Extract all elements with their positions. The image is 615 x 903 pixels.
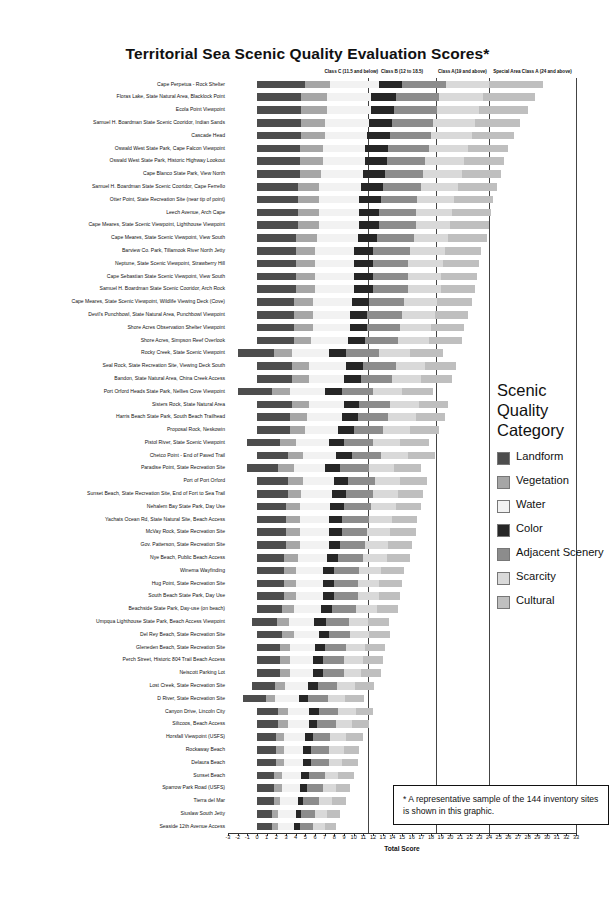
bar-segment-vegetation — [276, 746, 284, 754]
bar-segment-color — [313, 669, 323, 677]
bar-segment-water — [323, 145, 366, 153]
bar-segment-adjacent-scenery — [342, 388, 373, 396]
bar-segment-scarcity — [349, 618, 368, 626]
category-label: Proposal Rock, Neskowin — [167, 426, 225, 434]
bar-segment-water — [278, 823, 293, 831]
category-label: Canyon Drive, Lincoln City — [165, 708, 225, 716]
bar-segment-water — [315, 273, 354, 281]
bar-segment-adjacent-scenery — [367, 311, 402, 319]
bar-segment-water — [290, 669, 313, 677]
bar-segment-landform — [257, 170, 300, 178]
category-label: Delaura Beach — [191, 759, 225, 767]
bar-segment-landform — [243, 695, 266, 703]
bar-row — [228, 298, 576, 306]
category-label: Shore Acres Observation Shelter Viewpoin… — [127, 324, 225, 332]
bar-segment-landform — [257, 260, 296, 268]
legend-item: Scarcity — [497, 570, 609, 585]
bar-segment-vegetation — [286, 528, 300, 536]
bar-segment-water — [305, 426, 338, 434]
bar-segment-vegetation — [274, 784, 282, 792]
bar-segment-landform — [257, 580, 284, 588]
bar-segment-color — [338, 426, 353, 434]
bar-row — [228, 132, 576, 140]
bar-segment-scarcity — [431, 132, 472, 140]
legend-swatch-adjacent-scenery — [497, 548, 510, 561]
bar-segment-adjacent-scenery — [365, 337, 398, 345]
bar-segment-water — [301, 490, 332, 498]
bar-segment-vegetation — [294, 324, 313, 332]
bar-segment-landform — [247, 464, 278, 472]
bar-row — [228, 695, 576, 703]
bar-segment-color — [363, 170, 384, 178]
bar-segment-landform — [257, 132, 301, 140]
bar-row — [228, 170, 576, 178]
legend-label: Scarcity — [516, 570, 556, 583]
bar-segment-color — [305, 733, 313, 741]
legend-swatch-landform — [497, 452, 510, 465]
bar-segment-cultural — [396, 503, 421, 511]
bar-segment-cultural — [342, 759, 357, 767]
x-axis-label: Total Score — [228, 845, 576, 852]
bar-segment-water — [284, 746, 303, 754]
bar-segment-color — [346, 362, 363, 370]
category-label: Seaside 12th Avenue Access — [159, 823, 225, 831]
bar-segment-landform — [257, 669, 280, 677]
bar-row — [228, 644, 576, 652]
bar-segment-scarcity — [446, 81, 489, 89]
category-label: Port of Port Orford — [183, 477, 225, 485]
bar-segment-water — [292, 349, 329, 357]
bar-segment-color — [344, 401, 359, 409]
bar-segment-adjacent-scenery — [390, 132, 431, 140]
bar-segment-water — [282, 784, 299, 792]
bar-segment-color — [359, 196, 380, 204]
bar-segment-color — [308, 682, 318, 690]
legend-label: Color — [516, 522, 543, 535]
category-label: Samuel H. Boardman State Scenic Cooridor… — [92, 183, 225, 191]
legend-label: Cultural — [516, 594, 555, 607]
note-text: * A representative sample of the 144 inv… — [403, 794, 598, 816]
bar-segment-vegetation — [284, 554, 298, 562]
bar-segment-water — [278, 810, 295, 818]
category-label: Sparrow Park Road (USFS) — [162, 784, 225, 792]
bar-segment-water — [303, 452, 336, 460]
legend-label: Vegetation — [516, 474, 569, 487]
bar-segment-scarcity — [358, 592, 379, 600]
bar-segment-cultural — [338, 772, 353, 780]
bar-segment-landform — [257, 656, 280, 664]
bar-segment-vegetation — [294, 298, 313, 306]
bar-segment-scarcity — [338, 708, 355, 716]
bar-segment-scarcity — [373, 388, 402, 396]
bar-segment-scarcity — [396, 362, 425, 370]
bar-segment-cultural — [454, 196, 493, 204]
category-label: Lost Creek, State Recreation Site — [149, 682, 225, 690]
category-label: Siltcoos, Beach Access — [172, 720, 225, 728]
legend-item: Cultural — [497, 594, 609, 609]
bar-segment-cultural — [345, 695, 364, 703]
bar-segment-water — [309, 362, 346, 370]
bar-row — [228, 656, 576, 664]
bar-segment-vegetation — [300, 157, 323, 165]
bar-segment-water — [275, 695, 298, 703]
bar-segment-scarcity — [373, 490, 398, 498]
bar-segment-water — [284, 759, 303, 767]
category-label: Umpqua Lighthouse State Park, Beach Acce… — [96, 618, 225, 626]
bar-segment-adjacent-scenery — [385, 170, 424, 178]
bar-segment-color — [344, 375, 361, 383]
bar-segment-color — [342, 413, 357, 421]
bar-segment-adjacent-scenery — [326, 618, 349, 626]
bar-segment-adjacent-scenery — [329, 631, 350, 639]
bar-segment-water — [309, 401, 344, 409]
bar-segment-water — [325, 119, 369, 127]
bar-segment-vegetation — [294, 311, 313, 319]
bar-row — [228, 362, 576, 370]
bar-segment-cultural — [346, 733, 363, 741]
bar-segment-cultural — [336, 784, 350, 792]
bar-row — [228, 772, 576, 780]
bar-segment-vegetation — [278, 720, 288, 728]
bar-segment-water — [298, 554, 327, 562]
category-label: Rocky Creek, State Scenic Viewpoint — [141, 349, 225, 357]
bar-segment-landform — [257, 106, 301, 114]
bar-segment-landform — [257, 733, 276, 741]
bar-segment-vegetation — [288, 452, 303, 460]
bar-segment-scarcity — [359, 567, 380, 575]
